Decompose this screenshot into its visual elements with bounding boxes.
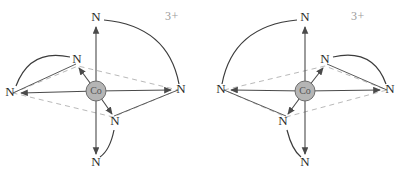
atom-label-axial-top-left: N (91, 9, 101, 24)
atom-label-axial-top-right: N (300, 9, 310, 24)
atom-label-equatorial-front-right: N (278, 113, 288, 128)
metal-symbol-left: Co (90, 85, 102, 96)
charge-label-left: 3+ (165, 9, 179, 23)
metal-symbol-right: Co (299, 85, 311, 96)
chelate-arc-front-to-bottom-left (100, 130, 114, 157)
atom-label-equatorial-right-left: N (176, 81, 186, 96)
atom-label-equatorial-front-left: N (110, 113, 120, 128)
chelate-arc-top-to-left-right (222, 20, 297, 84)
bond-co-equatorial-left-left (21, 91, 96, 93)
atom-label-equatorial-back-right: N (320, 51, 330, 66)
plane-edge-left-back-left (13, 64, 76, 93)
chelate-arc-front-to-bottom-right (287, 130, 301, 157)
structure-left-enantiomer: Co N N N N N N 3+ (5, 9, 186, 169)
atom-label-equatorial-back-left: N (72, 51, 82, 66)
chelate-arc-top-to-right-left (104, 20, 179, 84)
atom-label-axial-bottom-left: N (91, 154, 101, 169)
atom-label-equatorial-left-right: N (216, 81, 226, 96)
plane-edge-right-front-left (114, 90, 178, 116)
enantiomer-pair-diagram: Co N N N N N N 3+ Co (0, 0, 401, 171)
atom-label-equatorial-left-left: N (5, 84, 15, 99)
atom-label-axial-bottom-right: N (300, 154, 310, 169)
plane-edge-left-front-right (224, 90, 286, 116)
structure-right-enantiomer: Co N N N N N N 3+ (216, 9, 395, 169)
figure-canvas: Co N N N N N N 3+ Co (0, 0, 401, 171)
charge-label-right: 3+ (351, 9, 365, 23)
atom-label-equatorial-right-right: N (385, 81, 395, 96)
bond-co-equatorial-right-left (96, 90, 171, 91)
bond-co-equatorial-right-right (305, 90, 380, 91)
plane-edge-right-back-right (327, 64, 387, 90)
bond-co-equatorial-left-right (231, 90, 305, 91)
